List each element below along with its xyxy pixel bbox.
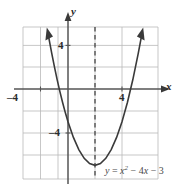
x-tick-label-negative-4: –4: [7, 92, 18, 103]
x-axis-label: x: [166, 81, 172, 92]
equation-term3: − 3: [151, 165, 164, 176]
graph-canvas: [0, 0, 178, 191]
equation-label: y = x2 − 4x − 3: [105, 165, 164, 176]
curve-right-arrowhead: [137, 28, 145, 41]
grid-lines: [23, 27, 158, 179]
y-tick-label-negative-4: –4: [49, 127, 60, 138]
graph-figure: x y –4 4 4 –4 y = x2 − 4x − 3: [0, 0, 178, 191]
x-axis: [14, 86, 170, 93]
y-tick-label-positive-4: 4: [58, 40, 64, 51]
curve-left-arrowhead: [45, 28, 53, 41]
x-tick-label-positive-4: 4: [119, 92, 125, 103]
equation-term2: − 4: [131, 165, 144, 176]
y-axis: [65, 12, 72, 184]
y-axis-label: y: [71, 6, 76, 17]
